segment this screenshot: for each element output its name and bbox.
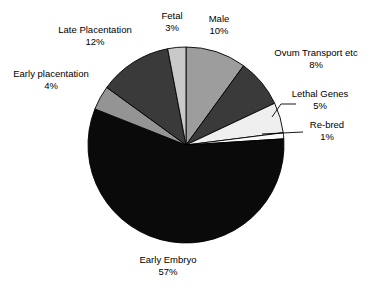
pie-label-percent-ovum-transport-etc: 8% <box>274 59 357 71</box>
pie-label-name-male: Male <box>209 13 230 24</box>
pie-label-early-placentation: Early placentation4% <box>13 68 89 91</box>
pie-label-percent-late-placentation: 12% <box>58 36 131 48</box>
pie-label-late-placentation: Late Placentation12% <box>58 24 131 47</box>
pie-label-name-ovum-transport-etc: Ovum Transport etc <box>274 47 357 58</box>
pie-label-name-fetal: Fetal <box>161 10 182 21</box>
pie-label-name-late-placentation: Late Placentation <box>58 24 131 35</box>
pie-chart-figure: Male10%Ovum Transport etc8%Lethal Genes5… <box>0 0 369 290</box>
pie-label-early-embryo: Early Embryo57% <box>139 254 196 277</box>
pie-slice-group <box>88 47 284 243</box>
pie-label-percent-lethal-genes: 5% <box>292 100 349 112</box>
pie-label-fetal: Fetal3% <box>161 10 182 33</box>
pie-label-percent-fetal: 3% <box>161 22 182 34</box>
pie-label-percent-re-bred: 1% <box>310 131 344 143</box>
pie-label-ovum-transport-etc: Ovum Transport etc8% <box>274 47 357 70</box>
pie-label-name-early-embryo: Early Embryo <box>139 254 196 265</box>
pie-label-name-re-bred: Re-bred <box>310 119 344 130</box>
pie-chart-canvas <box>0 0 369 290</box>
pie-label-re-bred: Re-bred1% <box>310 119 344 142</box>
pie-label-name-lethal-genes: Lethal Genes <box>292 88 349 99</box>
pie-label-percent-early-placentation: 4% <box>13 80 89 92</box>
pie-label-percent-early-embryo: 57% <box>139 266 196 278</box>
pie-label-male: Male10% <box>209 13 230 36</box>
pie-label-name-early-placentation: Early placentation <box>13 68 89 79</box>
pie-label-percent-male: 10% <box>209 25 230 37</box>
pie-label-lethal-genes: Lethal Genes5% <box>292 88 349 111</box>
